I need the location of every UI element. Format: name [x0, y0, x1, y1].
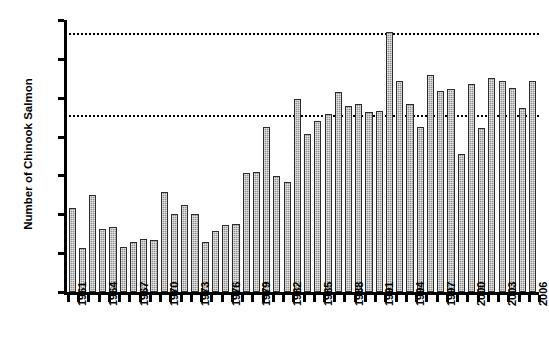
x-tick-label-1964: 1964 [107, 282, 119, 306]
bar-2000 [468, 84, 475, 292]
bar-1961 [69, 208, 76, 292]
x-tick-41 [487, 295, 490, 302]
bar-1990 [365, 112, 372, 292]
bar-1970 [161, 192, 168, 292]
bars-container [67, 20, 538, 292]
x-tick-label-1982: 1982 [291, 282, 303, 306]
x-tick-label-1979: 1979 [260, 282, 272, 306]
bar-1979 [253, 172, 260, 292]
bar-1995 [417, 127, 424, 292]
bar-1996 [427, 75, 434, 292]
x-tick-label-1970: 1970 [168, 282, 180, 306]
bar-2005 [519, 108, 526, 292]
x-tick-11 [180, 295, 183, 302]
bar-1975 [212, 231, 219, 292]
bar-1969 [150, 240, 157, 292]
bar-1972 [181, 205, 188, 292]
x-tick-label-1991: 1991 [383, 282, 395, 306]
bar-2003 [499, 81, 506, 292]
bar-1989 [355, 104, 362, 292]
bar-1999 [458, 154, 465, 292]
x-tick-label-1988: 1988 [353, 282, 365, 306]
bar-1967 [130, 242, 137, 292]
plot-area: 010000200003000040000500006000070000 667… [64, 20, 538, 292]
bar-1971 [171, 214, 178, 292]
x-tick-label-1973: 1973 [199, 282, 211, 306]
bar-1986 [325, 114, 332, 292]
y-tick-40000 [58, 136, 64, 139]
x-tick-label-1994: 1994 [414, 282, 426, 306]
x-tick-42 [497, 295, 500, 302]
x-tick-33 [405, 295, 408, 302]
bar-1982 [284, 182, 291, 292]
bar-1997 [437, 91, 444, 292]
bar-1963 [89, 195, 96, 292]
bar-1987 [335, 92, 342, 292]
x-tick-label-1985: 1985 [322, 282, 334, 306]
y-tick-20000 [58, 213, 64, 216]
x-tick-label-2003: 2003 [506, 282, 518, 306]
x-tick-15 [221, 295, 224, 302]
x-tick-label-2000: 2000 [475, 282, 487, 306]
bar-1964 [99, 229, 106, 292]
bar-1980 [263, 127, 270, 292]
bar-1983 [294, 99, 301, 293]
x-tick-label-1967: 1967 [138, 282, 150, 306]
x-tick-3 [98, 295, 101, 302]
bar-2001 [478, 128, 485, 292]
bar-1981 [273, 176, 280, 292]
x-tick-label-1961: 1961 [76, 282, 88, 306]
bar-1973 [191, 214, 198, 292]
y-tick-0 [58, 291, 64, 294]
x-tick-27 [343, 295, 346, 302]
bar-2002 [488, 78, 495, 292]
x-tick-12 [190, 295, 193, 302]
x-tick-36 [436, 295, 439, 302]
bar-1993 [396, 81, 403, 292]
x-tick-24 [313, 295, 316, 302]
x-tick-label-2006: 2006 [537, 282, 549, 306]
x-tick-9 [159, 295, 162, 302]
y-tick-60000 [58, 58, 64, 61]
bar-1998 [447, 89, 454, 292]
bar-1985 [314, 121, 321, 292]
x-tick-0 [67, 295, 70, 302]
bar-1991 [376, 111, 383, 292]
x-tick-label-1997: 1997 [445, 282, 457, 306]
bar-1992 [386, 32, 393, 292]
x-tick-label-1976: 1976 [230, 282, 242, 306]
y-axis-title: Number of Chinook Salmon [22, 34, 34, 274]
x-tick-6 [128, 295, 131, 302]
x-tick-45 [528, 295, 531, 302]
bar-1988 [345, 106, 352, 292]
y-tick-70000 [58, 19, 64, 22]
y-tick-10000 [58, 252, 64, 255]
x-tick-32 [395, 295, 398, 302]
bar-2006 [529, 81, 536, 292]
x-tick-39 [466, 295, 469, 302]
x-tick-18 [251, 295, 254, 302]
bar-2004 [509, 88, 516, 292]
y-tick-50000 [58, 97, 64, 100]
x-tick-20 [272, 295, 275, 302]
y-tick-30000 [58, 174, 64, 177]
x-tick-30 [374, 295, 377, 302]
bar-1966 [120, 247, 127, 292]
x-tick-21 [282, 295, 285, 302]
bar-1984 [304, 134, 311, 292]
bar-1994 [406, 104, 413, 292]
bar-1976 [222, 225, 229, 292]
bar-1978 [243, 173, 250, 292]
